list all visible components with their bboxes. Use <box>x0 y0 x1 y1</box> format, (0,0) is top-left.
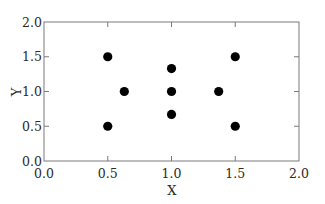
x-tick-label: 1.0 <box>162 166 182 181</box>
y-tick-labels: 0.00.51.01.52.0 <box>22 15 42 169</box>
data-point <box>167 87 176 96</box>
y-tick-label: 0.5 <box>22 119 42 134</box>
x-tick-label: 2.0 <box>289 166 309 181</box>
y-axis-label: Y <box>9 87 24 97</box>
y-tick-label: 1.5 <box>22 49 42 64</box>
data-point <box>103 122 112 131</box>
y-tick-label: 1.0 <box>22 84 42 99</box>
data-point <box>167 110 176 119</box>
data-point <box>103 52 112 61</box>
data-point <box>231 122 240 131</box>
y-tick-label: 2.0 <box>22 15 42 30</box>
data-points <box>103 52 240 131</box>
x-tick-label: 0.5 <box>98 166 118 181</box>
scatter-chart: 0.00.51.01.52.0 0.00.51.01.52.0 X Y <box>0 0 325 204</box>
data-point <box>231 52 240 61</box>
data-point <box>120 87 129 96</box>
data-point <box>214 87 223 96</box>
x-axis-label: X <box>167 183 177 198</box>
data-point <box>167 64 176 73</box>
y-tick-label: 0.0 <box>22 154 42 169</box>
x-tick-label: 1.5 <box>225 166 245 181</box>
x-tick-labels: 0.00.51.01.52.0 <box>34 166 309 181</box>
